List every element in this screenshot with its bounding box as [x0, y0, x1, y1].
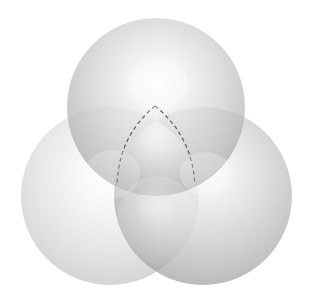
three-sphere-venn-diagram: [0, 0, 313, 299]
figure-canvas: Three intersecting translucent spheres T…: [0, 0, 313, 299]
top-sphere-highlight: [128, 58, 188, 110]
bottom-right-sphere-highlight: [180, 152, 232, 196]
bottom-left-sphere-highlight: [84, 150, 140, 198]
